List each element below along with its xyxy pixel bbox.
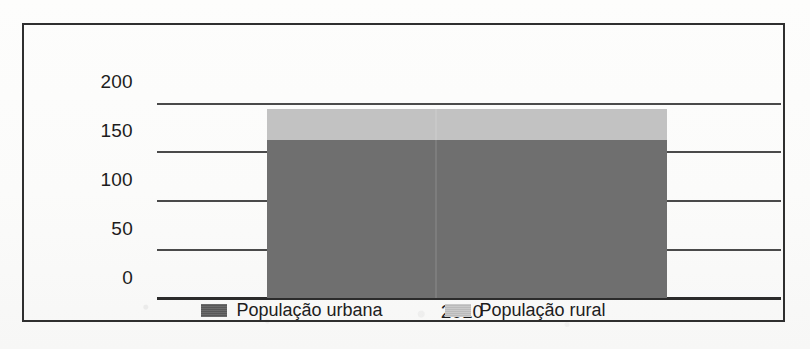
plot-area (157, 103, 781, 298)
y-tick-label-50: 50 (73, 219, 133, 238)
y-tick-label-0: 0 (73, 268, 133, 287)
legend-item-populacao-urbana[interactable]: População urbana (201, 300, 382, 321)
legend-swatch-rural-icon (445, 304, 471, 317)
chart-figure-frame: (em milhões) 200 150 100 50 0 2010 (22, 23, 785, 322)
legend-label-populacao-urbana: População urbana (236, 300, 382, 321)
bar-segment-populacao-urbana[interactable] (267, 140, 667, 298)
legend-label-populacao-rural: População rural (480, 300, 606, 321)
y-tick-label-100: 100 (73, 170, 133, 189)
legend-item-populacao-rural[interactable]: População rural (445, 300, 606, 321)
legend-swatch-urbana-icon (201, 304, 227, 317)
bar-segment-populacao-rural[interactable] (267, 109, 667, 140)
y-tick-label-200: 200 (73, 72, 133, 91)
chart-legend: População urbana População rural (22, 300, 785, 321)
gridline-200 (157, 103, 781, 105)
y-tick-label-150: 150 (73, 121, 133, 140)
stacked-bar-2010[interactable] (267, 109, 667, 298)
